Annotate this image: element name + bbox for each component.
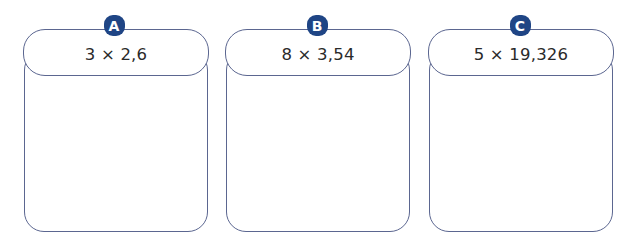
answer-area-b[interactable] [226,50,410,232]
label-badge-c: C [510,15,531,36]
expression-text: 3 × 2,6 [85,45,147,64]
card-b: 8 × 3,54 B [226,0,410,232]
expression-header-a: 3 × 2,6 [23,29,209,76]
expression-text: 5 × 19,326 [474,45,569,64]
answer-area-a[interactable] [24,50,208,232]
label-badge-b: B [307,15,328,36]
label-badge-a: A [104,15,125,36]
expression-header-b: 8 × 3,54 [225,29,411,76]
expression-header-c: 5 × 19,326 [428,29,614,76]
card-a: 3 × 2,6 A [24,0,208,232]
answer-area-c[interactable] [429,50,613,232]
card-c: 5 × 19,326 C [429,0,613,232]
expression-text: 8 × 3,54 [281,45,354,64]
